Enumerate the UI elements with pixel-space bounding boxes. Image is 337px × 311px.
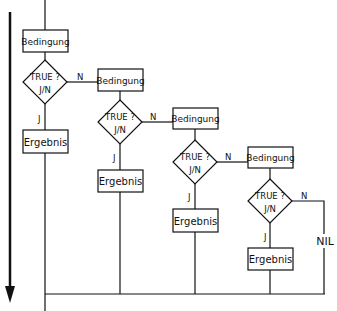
level-2: Bedingung TRUE ? J/N N J Ergebnis	[96, 69, 156, 192]
result-label: Ergebnis	[249, 254, 292, 265]
decision-options: J/N	[263, 204, 276, 214]
decision-question: TRUE ?	[29, 72, 60, 82]
yes-branch-label: J	[187, 192, 191, 202]
decision-options: J/N	[38, 85, 51, 95]
result-label: Ergebnis	[24, 137, 67, 148]
no-branch-label: N	[301, 191, 307, 201]
decision-diamond	[173, 140, 217, 184]
flowchart-diagram: Bedingung TRUE ? J/N N J Ergebnis Beding…	[0, 0, 337, 311]
level-3: Bedingung TRUE ? J/N N J Ergebnis	[171, 108, 231, 232]
decision-options: J/N	[188, 165, 201, 175]
decision-question: TRUE ?	[104, 112, 135, 122]
yes-branch-label: J	[263, 232, 267, 242]
decision-question: TRUE ?	[179, 152, 210, 162]
decision-diamond	[23, 60, 67, 104]
result-label: Ergebnis	[99, 176, 142, 187]
decision-options: J/N	[113, 125, 126, 135]
no-branch-label: N	[77, 72, 83, 82]
level-4: Bedingung TRUE ? J/N N J Ergebnis	[246, 147, 307, 270]
condition-label: Bedingung	[96, 76, 144, 86]
decision-diamond	[248, 179, 292, 223]
condition-label: Bedingung	[246, 153, 294, 163]
condition-label: Bedingung	[21, 37, 69, 47]
decision-question: TRUE ?	[254, 191, 285, 201]
level-1: Bedingung TRUE ? J/N N J Ergebnis	[21, 30, 83, 153]
condition-label: Bedingung	[171, 114, 219, 124]
fallthrough-nil-label: NIL	[316, 235, 334, 248]
yes-branch-label: J	[112, 153, 116, 163]
result-label: Ergebnis	[174, 216, 217, 227]
decision-diamond	[98, 100, 142, 144]
yes-branch-label: J	[37, 114, 41, 124]
no-branch-label: N	[225, 152, 231, 162]
no-branch-label: N	[150, 112, 156, 122]
flow-direction-arrow-icon	[5, 12, 15, 303]
